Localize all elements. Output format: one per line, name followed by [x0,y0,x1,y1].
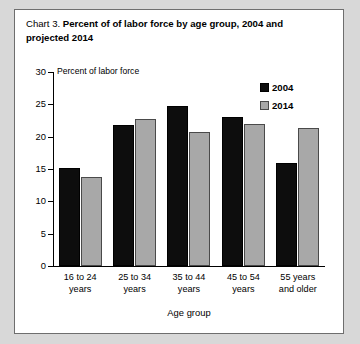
legend-swatch-icon [260,101,269,110]
bar-group [53,72,107,266]
legend-label: 2014 [272,100,293,111]
y-axis-tick-label: 10 [18,196,46,205]
y-axis-tick-mark [48,201,53,202]
legend-swatch-icon [260,83,269,92]
x-axis-tick-label-line: 45 to 54 [216,272,270,284]
x-axis-tick-label: 35 to 44years [162,272,216,295]
x-axis-tick-label: 16 to 24years [53,272,107,295]
chart-title-text: Percent of of labor force by age group, … [26,18,283,43]
y-axis-tick-mark [48,266,53,267]
x-axis-line [53,266,325,267]
x-axis-tick-label: 55 yearsand older [271,272,325,295]
legend-item-2004: 2004 [260,80,322,95]
y-axis-ticks: 051015202530 [15,10,46,344]
x-axis-tick-label-line: 16 to 24 [53,272,107,284]
bar-2014-4 [244,124,265,266]
x-axis-tick-label-line: years [107,284,161,296]
x-axis-tick-label-line: years [162,284,216,296]
x-axis-tick-label-line: years [53,284,107,296]
y-axis-tick-mark [48,137,53,138]
y-axis-tick-label: 20 [18,132,46,141]
x-axis-tick-label: 25 to 34years [107,272,161,295]
y-axis-tick-mark [48,169,53,170]
bar-2004-4 [222,117,243,266]
legend-item-2014: 2014 [260,98,322,113]
x-axis-tick-label-line: and older [271,284,325,296]
legend-label: 2004 [272,82,293,93]
bar-2014-3 [189,132,210,267]
y-axis-tick-mark [48,234,53,235]
y-axis-tick-label: 30 [18,67,46,76]
y-axis-tick-mark [48,72,53,73]
bar-group [162,72,216,266]
x-axis-tick-label: 45 to 54years [216,272,270,295]
chart-title: Chart 3. Percent of of labor force by ag… [26,17,326,44]
bar-2004-3 [167,106,188,266]
chart-card: Chart 3. Percent of of labor force by ag… [14,9,344,334]
x-axis-label: Age group [53,307,325,318]
y-axis-tick-label: 25 [18,99,46,108]
x-axis-tick-label-line: years [216,284,270,296]
bar-2014-5 [298,128,319,266]
bar-2004-2 [113,125,134,266]
x-axis-tick-label-line: 25 to 34 [107,272,161,284]
bar-2014-1 [81,177,102,266]
y-axis-tick-mark [48,104,53,105]
y-axis-tick-label: 15 [18,164,46,173]
y-axis-tick-label: 5 [18,229,46,238]
x-axis-tick-label-line: 35 to 44 [162,272,216,284]
y-axis-tick-label: 0 [18,261,46,270]
bar-2004-5 [276,163,297,266]
bar-group [107,72,161,266]
legend: 20042014 [260,80,322,116]
bar-2014-2 [135,119,156,266]
x-axis-tick-label-line: 55 years [271,272,325,284]
bar-2004-1 [59,168,80,266]
